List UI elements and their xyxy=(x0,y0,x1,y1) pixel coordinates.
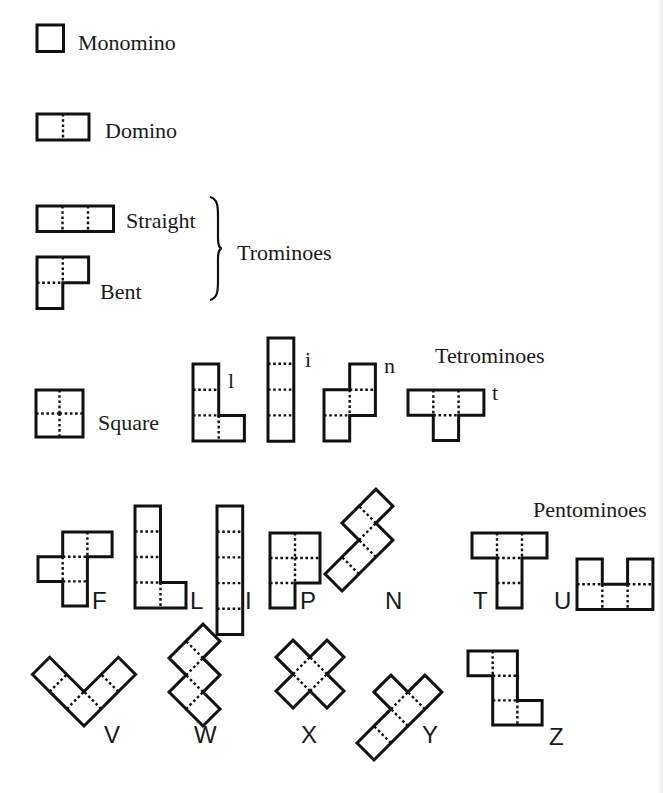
label-bent: Bent xyxy=(100,279,142,304)
label-tet-i: i xyxy=(305,347,311,372)
piece-outline xyxy=(152,624,254,726)
cell-divider-lines xyxy=(193,390,219,441)
pentomino-X xyxy=(259,623,361,725)
tetromino-n xyxy=(324,364,375,441)
label-pent-L: L xyxy=(190,587,203,614)
cell-divider-lines xyxy=(493,651,518,725)
piece-outline xyxy=(37,25,64,52)
pentomino-Z xyxy=(468,651,542,725)
label-straight: Straight xyxy=(126,208,196,233)
tromino-straight xyxy=(37,206,114,232)
piece-outline xyxy=(259,623,361,725)
label-square: Square xyxy=(98,410,159,435)
label-pent-P: P xyxy=(300,587,316,614)
page-edge-shadow xyxy=(657,0,663,793)
piece-outline xyxy=(193,364,244,441)
cell-divider-lines xyxy=(63,206,89,232)
label-trominoes: Trominoes xyxy=(237,240,332,265)
cell-divider-lines xyxy=(37,257,63,283)
tetromino-t xyxy=(408,390,484,441)
piece-outline xyxy=(217,506,243,635)
piece-outline xyxy=(37,206,114,232)
piece-outline xyxy=(468,651,542,725)
cell-divider-lines xyxy=(293,657,327,691)
cell-divider-lines xyxy=(63,532,88,581)
label-tet-n: n xyxy=(384,353,395,378)
pentomino-V xyxy=(32,623,135,726)
trominoes-brace xyxy=(210,197,222,300)
label-tet-l: l xyxy=(228,368,234,393)
label-pentominoes: Pentominoes xyxy=(533,497,647,522)
piece-outline xyxy=(32,623,135,726)
cell-divider-lines xyxy=(36,390,83,437)
label-pent-I: I xyxy=(245,587,252,614)
monomino xyxy=(37,25,64,52)
label-pent-N: N xyxy=(385,587,402,614)
label-monomino: Monomino xyxy=(78,30,176,55)
cell-divider-lines xyxy=(135,532,161,609)
label-pent-U: U xyxy=(554,587,571,614)
pentomino-U xyxy=(577,559,653,610)
label-pent-T: T xyxy=(473,587,488,614)
pentomino-I xyxy=(217,506,243,635)
label-tetrominoes: Tetrominoes xyxy=(435,343,545,368)
pentomino-L xyxy=(135,506,186,608)
tetromino-square xyxy=(36,390,83,437)
cell-divider-lines xyxy=(324,390,375,416)
polyomino-diagram: MonominoDominoStraightBentTrominoesSquar… xyxy=(0,0,663,793)
label-pent-F: F xyxy=(92,587,107,614)
cell-divider-lines xyxy=(268,364,294,416)
label-pent-W: W xyxy=(194,721,217,748)
label-pent-Y: Y xyxy=(422,721,438,748)
cell-divider-lines xyxy=(497,533,522,583)
pentomino-N xyxy=(308,489,410,591)
piece-outline xyxy=(308,489,410,591)
label-domino: Domino xyxy=(105,118,177,143)
pentomino-W xyxy=(152,624,254,726)
cell-divider-lines xyxy=(577,584,653,609)
cell-divider-lines xyxy=(433,390,458,415)
tetromino-i xyxy=(268,338,294,441)
domino xyxy=(37,114,89,140)
label-pent-X: X xyxy=(301,721,317,748)
label-pent-Z: Z xyxy=(549,723,564,750)
cell-divider-lines xyxy=(217,532,243,609)
label-tet-t: t xyxy=(492,380,498,405)
label-pent-V: V xyxy=(104,721,120,748)
tromino-bent xyxy=(37,257,89,309)
cell-divider-lines xyxy=(270,533,320,583)
tetromino-l xyxy=(193,364,244,441)
